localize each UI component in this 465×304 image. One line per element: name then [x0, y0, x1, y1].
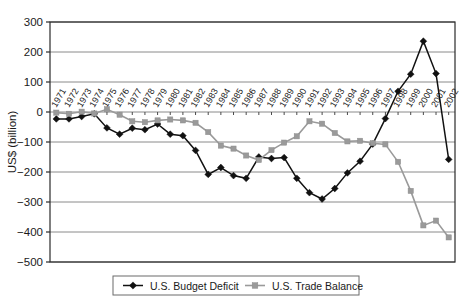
y-axis-tick-label: 200	[24, 46, 43, 58]
y-axis-tick-label: 100	[24, 76, 43, 88]
data-point-trade-balance[interactable]	[421, 223, 426, 228]
data-point-trade-balance[interactable]	[244, 153, 249, 158]
data-point-trade-balance[interactable]	[357, 138, 362, 143]
data-point-trade-balance[interactable]	[168, 117, 173, 122]
data-point-budget-deficit[interactable]	[116, 131, 123, 138]
legend-label-trade-balance[interactable]: U.S. Trade Balance	[272, 280, 363, 292]
y-axis-tick-label: −100	[17, 136, 43, 148]
data-point-trade-balance[interactable]	[269, 148, 274, 153]
data-point-trade-balance[interactable]	[92, 111, 97, 116]
chart-container: 3002001000−100−200−300−400−5001971197219…	[0, 0, 465, 304]
data-point-trade-balance[interactable]	[395, 159, 400, 164]
line-chart: 3002001000−100−200−300−400−5001971197219…	[0, 0, 465, 304]
legend-marker-trade-balance	[252, 283, 258, 289]
data-point-trade-balance[interactable]	[307, 119, 312, 124]
data-point-trade-balance[interactable]	[79, 109, 84, 114]
series-line-budget-deficit	[56, 41, 448, 199]
series-line-trade-balance	[56, 109, 448, 237]
y-axis-tick-label: −500	[17, 256, 43, 268]
data-point-budget-deficit[interactable]	[268, 155, 275, 162]
data-point-trade-balance[interactable]	[294, 134, 299, 139]
data-point-trade-balance[interactable]	[104, 107, 109, 112]
data-point-budget-deficit[interactable]	[433, 70, 440, 77]
data-point-trade-balance[interactable]	[383, 142, 388, 147]
data-point-budget-deficit[interactable]	[420, 38, 427, 45]
data-point-trade-balance[interactable]	[446, 235, 451, 240]
data-point-trade-balance[interactable]	[320, 121, 325, 126]
data-point-trade-balance[interactable]	[370, 141, 375, 146]
data-point-trade-balance[interactable]	[142, 120, 147, 125]
data-point-budget-deficit[interactable]	[382, 115, 389, 122]
data-point-trade-balance[interactable]	[54, 110, 59, 115]
data-point-trade-balance[interactable]	[433, 218, 438, 223]
data-point-trade-balance[interactable]	[282, 140, 287, 145]
data-point-trade-balance[interactable]	[130, 119, 135, 124]
data-point-budget-deficit[interactable]	[142, 126, 149, 133]
data-point-trade-balance[interactable]	[256, 157, 261, 162]
data-point-trade-balance[interactable]	[218, 143, 223, 148]
y-axis-tick-label: 300	[24, 16, 43, 28]
data-point-trade-balance[interactable]	[155, 118, 160, 123]
data-point-budget-deficit[interactable]	[53, 116, 60, 123]
data-point-trade-balance[interactable]	[332, 130, 337, 135]
data-point-trade-balance[interactable]	[66, 111, 71, 116]
data-point-budget-deficit[interactable]	[445, 156, 452, 163]
y-axis-tick-label: −200	[17, 166, 43, 178]
y-axis-tick-label: −400	[17, 226, 43, 238]
y-axis-title: US$ (billion)	[6, 111, 18, 174]
data-point-budget-deficit[interactable]	[243, 175, 250, 182]
data-point-budget-deficit[interactable]	[281, 154, 288, 161]
y-axis-tick-label: −300	[17, 196, 43, 208]
data-point-trade-balance[interactable]	[117, 112, 122, 117]
data-point-trade-balance[interactable]	[345, 139, 350, 144]
y-axis-tick-label: 0	[37, 106, 43, 118]
data-point-trade-balance[interactable]	[180, 118, 185, 123]
data-point-trade-balance[interactable]	[206, 130, 211, 135]
data-point-trade-balance[interactable]	[193, 120, 198, 125]
data-point-trade-balance[interactable]	[408, 188, 413, 193]
data-point-trade-balance[interactable]	[231, 146, 236, 151]
legend-label-budget-deficit[interactable]: U.S. Budget Deficit	[150, 280, 239, 292]
data-point-budget-deficit[interactable]	[129, 125, 136, 132]
